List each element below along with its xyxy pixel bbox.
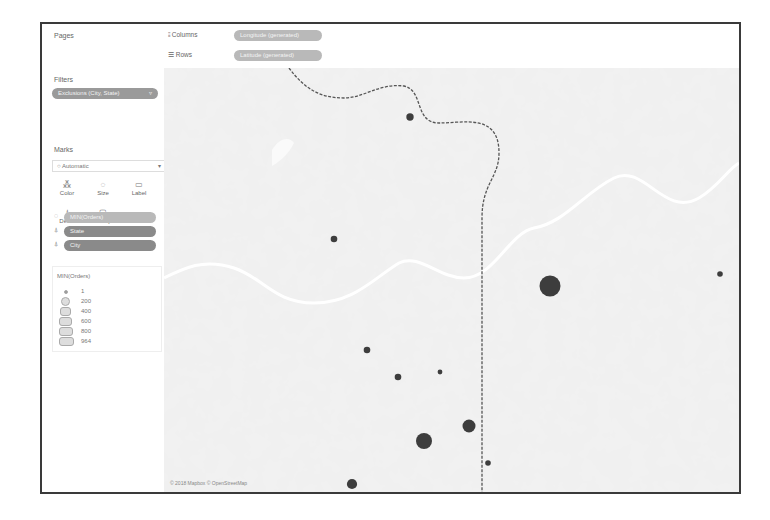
legend-size-symbol [64,290,68,294]
label-icon: ▭ [124,180,154,190]
city-mark[interactable] [347,479,357,489]
legend-size-symbol [60,307,71,316]
city-mark[interactable] [540,276,561,297]
label-button[interactable]: ▭ Label [124,180,154,196]
color-label: Color [60,190,74,196]
mark-type-dropdown[interactable]: ○ Automatic ▾ [52,160,166,172]
color-icon: ⁂ [52,180,82,190]
city-mark[interactable] [463,420,476,433]
size-icon: ◌ [88,180,118,190]
legend-title: MIN(Orders) [57,273,90,279]
legend-size-symbol [59,317,72,326]
columns-shelf: ⦙⦙ Columns Longitude (generated) [164,26,739,46]
city-mark[interactable] [364,347,371,354]
detail-icon: ⍋ [54,226,58,234]
filter-icon: ▿ [149,88,152,99]
legend-label: 200 [81,297,91,305]
city-mark[interactable] [438,370,443,375]
rows-pill[interactable]: Latitude (generated) [234,50,322,61]
color-button[interactable]: ⁂ Color [52,180,82,196]
legend-label: 1 [81,287,84,295]
map-attribution: © 2018 Mapbox © OpenStreetMap [170,480,247,486]
columns-label: Columns [172,31,198,38]
chevron-down-icon: ▾ [158,161,161,171]
map-view[interactable]: © 2018 Mapbox © OpenStreetMap [164,68,739,492]
legend-size-symbol [59,337,74,346]
legend-label: 964 [81,337,91,345]
size-icon: ◌ [54,212,58,219]
columns-shelf-label: ⦙⦙ Columns [168,31,197,39]
legend-size-symbol [59,327,73,336]
city-mark[interactable] [717,271,723,277]
sidebar: Pages Filters Exclusions (City, State) ▿… [42,24,162,492]
columns-pill[interactable]: Longitude (generated) [234,30,322,41]
tableau-worksheet: Pages Filters Exclusions (City, State) ▿… [40,22,741,494]
pages-title: Pages [54,32,74,39]
filters-title: Filters [54,76,73,83]
label-label: Label [132,190,147,196]
marks-title: Marks [54,146,73,153]
rows-shelf: ☰ Rows Latitude (generated) [164,46,739,66]
size-button[interactable]: ◌ Size [88,180,118,196]
city-mark[interactable] [416,433,432,449]
size-legend: MIN(Orders) 1 200 400 600 800 [52,266,162,352]
filter-pill-label: Exclusions (City, State) [58,90,120,96]
size-label: Size [97,190,109,196]
mark-type-value: Automatic [62,163,89,169]
city-mark[interactable] [406,113,413,120]
mark-pill-min-orders[interactable]: MIN(Orders) [64,212,156,223]
map-terrain-texture [164,68,739,492]
legend-size-symbol [61,297,70,306]
city-mark[interactable] [485,460,491,466]
filter-pill[interactable]: Exclusions (City, State) ▿ [52,88,158,99]
map-canvas [164,68,739,492]
city-mark[interactable] [331,236,338,243]
mark-pill-state[interactable]: State [64,226,156,237]
mark-pill-city[interactable]: City [64,240,156,251]
legend-label: 600 [81,317,91,325]
rows-shelf-label: ☰ Rows [168,51,192,59]
legend-label: 400 [81,307,91,315]
legend-label: 800 [81,327,91,335]
city-mark[interactable] [395,374,402,381]
rows-label: Rows [176,51,192,58]
detail-icon: ⍋ [54,240,58,248]
